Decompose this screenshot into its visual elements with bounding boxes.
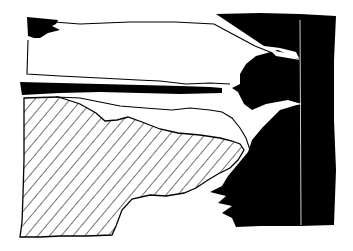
right-black-mass bbox=[210, 13, 336, 227]
hatched-region bbox=[20, 97, 244, 237]
upper-left-black-patch bbox=[27, 17, 60, 38]
abstract-drawing bbox=[0, 0, 353, 251]
drawing-canvas bbox=[0, 0, 353, 251]
